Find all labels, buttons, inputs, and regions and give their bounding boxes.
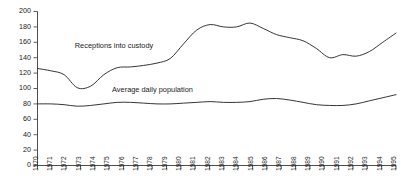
- y-tick-label: 80: [23, 99, 31, 108]
- x-tick-label: 1981: [189, 156, 196, 171]
- x-tick-label: 1970: [32, 156, 39, 171]
- y-axis-group: 020406080100120140160180200: [19, 6, 38, 169]
- y-axis-ticks: [34, 12, 38, 166]
- series-line-1: [38, 23, 397, 89]
- x-tick-label: 1972: [60, 156, 67, 171]
- series-label-1: Receptions into custody: [75, 41, 154, 50]
- y-tick-label: 120: [19, 68, 31, 77]
- x-tick-label: 1977: [132, 156, 139, 171]
- series-label-2: Average daily population: [112, 85, 193, 94]
- y-tick-label: 200: [19, 6, 31, 15]
- x-tick-label: 1983: [218, 156, 225, 171]
- y-tick-label: 40: [23, 130, 31, 139]
- x-tick-label: 1980: [175, 156, 182, 171]
- y-tick-label: 140: [19, 53, 31, 62]
- chart-figure: 020406080100120140160180200 197019711972…: [0, 0, 401, 194]
- x-tick-label: 1979: [161, 156, 168, 171]
- y-tick-label: 180: [19, 22, 31, 31]
- x-tick-label: 1994: [376, 156, 383, 171]
- x-tick-label: 1986: [261, 156, 268, 171]
- data-series-group: [38, 23, 397, 106]
- y-tick-label: 0: [27, 160, 31, 169]
- x-tick-label: 1974: [89, 156, 96, 171]
- series-annotations-group: Receptions into custodyAverage daily pop…: [75, 41, 193, 93]
- x-tick-label: 1975: [103, 156, 110, 171]
- x-tick-label: 1989: [304, 156, 311, 171]
- y-tick-label: 100: [19, 83, 31, 92]
- y-tick-label: 160: [19, 37, 31, 46]
- y-tick-label: 20: [23, 145, 31, 154]
- x-tick-label: 1985: [247, 156, 254, 171]
- x-tick-label: 1976: [118, 156, 125, 171]
- x-tick-label: 1992: [347, 156, 354, 171]
- x-tick-label: 1984: [232, 156, 239, 171]
- x-tick-label: 1971: [46, 156, 53, 171]
- x-tick-label: 1995: [390, 156, 397, 171]
- line-chart: 020406080100120140160180200 197019711972…: [0, 0, 401, 194]
- x-tick-label: 1987: [275, 156, 282, 171]
- y-tick-label: 60: [23, 114, 31, 123]
- x-tick-label: 1993: [361, 156, 368, 171]
- x-tick-label: 1990: [318, 156, 325, 171]
- x-axis-tick-labels: 1970197119721973197419751976197719781979…: [32, 156, 398, 171]
- x-tick-label: 1982: [204, 156, 211, 171]
- y-axis-tick-labels: 020406080100120140160180200: [19, 6, 31, 169]
- x-tick-label: 1988: [290, 156, 297, 171]
- x-tick-label: 1978: [146, 156, 153, 171]
- x-tick-label: 1991: [333, 156, 340, 171]
- x-axis-group: 1970197119721973197419751976197719781979…: [32, 156, 398, 171]
- series-line-2: [38, 95, 397, 107]
- x-tick-label: 1973: [75, 156, 82, 171]
